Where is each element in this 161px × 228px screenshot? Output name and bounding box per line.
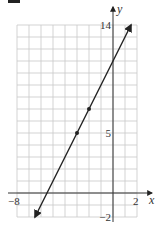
y-axis-label: y <box>116 2 123 16</box>
x-tick-min: −8 <box>8 195 20 207</box>
y-tick-max: 14 <box>100 19 112 31</box>
y-tick-min: −2 <box>99 211 111 223</box>
y-tick-mid: 5 <box>106 127 112 139</box>
data-point <box>87 107 91 111</box>
x-tick-max: 2 <box>133 195 139 207</box>
axis-labels: y x −8 2 14 5 −2 <box>8 2 155 223</box>
x-axis-label: x <box>148 193 155 207</box>
coordinate-plane: y x −8 2 14 5 −2 <box>0 0 161 228</box>
axes <box>8 7 152 222</box>
data-point <box>75 131 79 135</box>
grid <box>17 25 137 217</box>
